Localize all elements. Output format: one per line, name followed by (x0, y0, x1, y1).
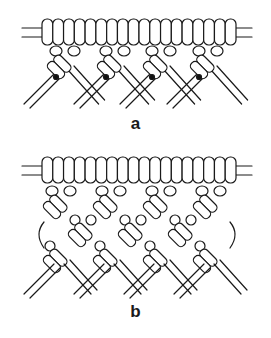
panel-a-label: a (0, 114, 271, 134)
panel-b-label: b (0, 302, 271, 322)
knot-diagram-b (0, 152, 271, 302)
knot-diagram-a (0, 14, 271, 114)
panel-a-illustration (0, 14, 271, 114)
panel-b-illustration (0, 152, 271, 302)
